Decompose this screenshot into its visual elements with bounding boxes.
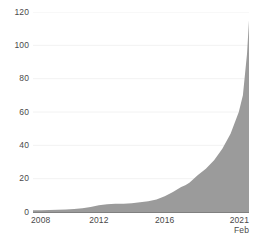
x-axis-tick-label: 2012	[83, 215, 115, 225]
x-axis-tick-label: 2021Feb	[217, 215, 249, 236]
x-axis-tick-year: 2008	[31, 215, 50, 225]
x-axis-tick-year: 2016	[155, 215, 174, 225]
x-axis-tick-month: Feb	[217, 225, 249, 236]
x-axis-tick-label: 2016	[149, 215, 181, 225]
x-axis-tick-label: 2008	[31, 215, 50, 225]
x-axis-labels: 2008201220162021Feb	[0, 0, 265, 247]
x-axis-tick-year: 2021	[230, 215, 249, 225]
area-chart: 020406080100120 2008201220162021Feb	[0, 0, 265, 247]
x-axis-tick-year: 2012	[89, 215, 108, 225]
